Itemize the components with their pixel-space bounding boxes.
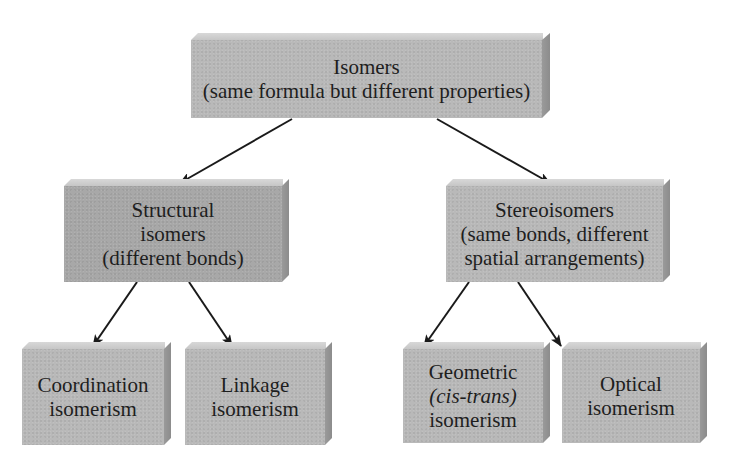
structural-line-3: (different bonds) [102,246,243,270]
node-isomers: Isomers (same formula but different prop… [191,33,550,118]
stereo-line-2: (same bonds, different [461,222,649,246]
arrow-stereo-to-geometric [424,282,469,346]
node-isomers-subtitle: (same formula but different properties) [203,79,530,103]
node-linkage-isomerism: Linkage isomerism [185,342,332,445]
coordination-line-1: Coordination [38,373,149,397]
isomer-classification-diagram: Isomers (same formula but different prop… [0,0,742,472]
node-structural-isomers: Structural isomers (different bonds) [64,179,289,282]
node-stereoisomers: Stereoisomers (same bonds, different spa… [446,179,670,282]
structural-line-1: Structural [132,198,215,222]
optical-line-1: Optical [600,372,662,396]
node-isomers-title: Isomers [333,55,400,79]
arrow-structural-to-coordination [93,282,137,346]
structural-line-2: isomers [140,222,205,246]
arrow-isomers-to-structural [180,119,292,183]
node-geometric-isomerism: Geometric (cis-trans) isomerism [403,342,550,443]
arrow-isomers-to-stereo [437,119,550,183]
coordination-line-2: isomerism [49,397,137,421]
arrow-structural-to-linkage [189,282,232,346]
geometric-line-1: Geometric [429,360,518,384]
arrow-stereo-to-optical [518,282,561,346]
node-coordination-isomerism: Coordination isomerism [22,342,171,445]
node-optical-isomerism: Optical isomerism [562,342,707,443]
optical-line-2: isomerism [587,396,675,420]
geometric-line-3: isomerism [429,408,517,432]
linkage-line-1: Linkage [221,373,290,397]
stereo-line-3: spatial arrangements) [464,246,644,270]
linkage-line-2: isomerism [211,397,299,421]
stereo-line-1: Stereoisomers [495,198,614,222]
geometric-line-2: (cis-trans) [429,384,517,408]
